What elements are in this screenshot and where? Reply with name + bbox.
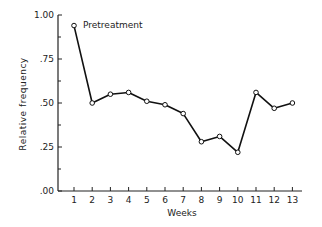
x-axis: 12345678910111213 bbox=[58, 187, 302, 205]
y-tick-label: .00 bbox=[40, 186, 55, 196]
x-tick-label: 4 bbox=[126, 195, 132, 205]
data-point-marker bbox=[199, 139, 204, 144]
x-tick-label: 13 bbox=[287, 195, 298, 205]
y-tick-label: .50 bbox=[40, 98, 55, 108]
x-axis-label: Weeks bbox=[167, 208, 197, 218]
x-tick-label: 7 bbox=[180, 195, 186, 205]
x-tick-label: 1 bbox=[71, 195, 77, 205]
data-point-marker bbox=[126, 90, 131, 95]
data-point-marker bbox=[217, 134, 222, 139]
data-point-marker bbox=[163, 102, 168, 107]
annotation-label: Pretreatment bbox=[83, 20, 143, 30]
y-tick-label: .75 bbox=[40, 54, 54, 64]
data-point-marker bbox=[290, 101, 295, 106]
y-axis-label: Relative frequency bbox=[18, 57, 28, 150]
x-tick-label: 10 bbox=[232, 195, 244, 205]
x-tick-label: 3 bbox=[108, 195, 114, 205]
x-tick-label: 12 bbox=[268, 195, 279, 205]
data-point-marker bbox=[108, 92, 113, 97]
line-chart: .00.25.50.751.00 12345678910111213 Pretr… bbox=[0, 0, 322, 227]
data-point-marker bbox=[145, 99, 150, 104]
series-line bbox=[74, 26, 292, 153]
data-point-marker bbox=[90, 101, 95, 106]
y-axis: .00.25.50.751.00 bbox=[34, 10, 62, 196]
data-series bbox=[72, 23, 295, 154]
x-tick-label: 5 bbox=[144, 195, 150, 205]
x-tick-label: 9 bbox=[217, 195, 223, 205]
data-point-marker bbox=[181, 111, 186, 116]
x-tick-label: 6 bbox=[162, 195, 168, 205]
data-point-marker bbox=[72, 23, 77, 28]
annotations: Pretreatment bbox=[83, 20, 143, 30]
x-tick-label: 11 bbox=[250, 195, 261, 205]
x-tick-label: 2 bbox=[89, 195, 95, 205]
y-tick-label: .25 bbox=[40, 142, 54, 152]
y-tick-label: 1.00 bbox=[34, 10, 54, 20]
data-point-marker bbox=[254, 90, 259, 95]
x-tick-label: 8 bbox=[199, 195, 205, 205]
data-point-marker bbox=[272, 106, 277, 111]
data-point-marker bbox=[236, 150, 241, 155]
